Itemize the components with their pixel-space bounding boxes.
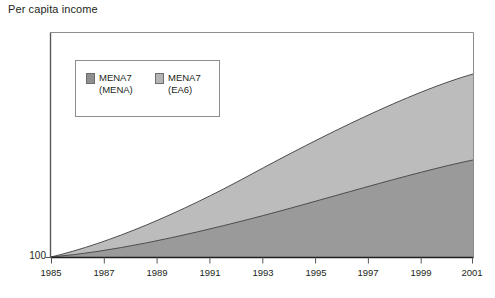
legend-swatch-mena7-ea6 — [155, 73, 164, 84]
legend-label-mena7-ea6: MENA7 (EA6) — [168, 72, 201, 96]
y-axis-base-label: 100 — [29, 250, 46, 262]
legend-label-line2: (EA6) — [168, 84, 192, 95]
chart-container: Per capita income 100 1 — [0, 0, 495, 298]
legend-label-line1: MENA7 — [99, 72, 132, 83]
legend-label-line1: MENA7 — [168, 72, 201, 83]
y-axis-base-label-wrap: 100 — [10, 250, 46, 264]
x-tick-label-1999: 1999 — [401, 267, 441, 278]
legend-entry-mena7-mena: MENA7 (MENA) — [86, 72, 133, 96]
x-tick-label-1989: 1989 — [137, 267, 177, 278]
legend-entry-mena7-ea6: MENA7 (EA6) — [155, 72, 201, 96]
x-tick-label-1995: 1995 — [296, 267, 336, 278]
chart-plot-area — [0, 0, 495, 298]
chart-legend: MENA7 (MENA) MENA7 (EA6) — [75, 60, 220, 117]
x-axis-ticks — [52, 258, 473, 264]
x-tick-label-2001: 2001 — [452, 267, 492, 278]
legend-label-line2: (MENA) — [99, 84, 133, 95]
legend-label-mena7-mena: MENA7 (MENA) — [99, 72, 133, 96]
x-tick-label-1997: 1997 — [348, 267, 388, 278]
x-tick-label-1991: 1991 — [190, 267, 230, 278]
x-tick-label-1985: 1985 — [31, 267, 71, 278]
x-tick-label-1987: 1987 — [84, 267, 124, 278]
x-tick-label-1993: 1993 — [243, 267, 283, 278]
legend-swatch-mena7-mena — [86, 73, 95, 84]
